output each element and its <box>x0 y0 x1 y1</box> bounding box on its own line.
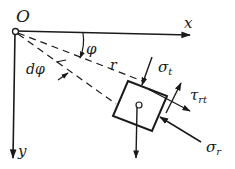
radius-label: r <box>110 57 118 73</box>
sigma-t-label: σt <box>158 58 173 77</box>
origin-label: O <box>16 6 30 26</box>
sigma-r-arrow <box>160 117 201 142</box>
y-axis-label: y <box>17 142 27 160</box>
angle-phi-label: φ <box>86 40 97 58</box>
dphi-arrow <box>58 73 68 80</box>
polar-stress-element-diagram: O x y φ dφ r σt τrt σr <box>0 0 235 169</box>
y-axis <box>13 32 15 158</box>
x-axis-label: x <box>184 14 193 32</box>
origin-point <box>13 29 19 35</box>
x-axis <box>16 31 190 35</box>
body-force-arrow <box>136 108 137 158</box>
dphi-label: dφ <box>26 61 45 77</box>
dphi-tick-upper <box>56 60 66 62</box>
sigma-t-arrow <box>142 57 152 85</box>
element-centroid <box>136 102 142 108</box>
tau-rt-arrow-up <box>166 83 181 113</box>
angle-phi-arc <box>80 33 84 58</box>
tau-rt-label: τrt <box>190 86 208 105</box>
sigma-r-label: σr <box>206 138 222 157</box>
